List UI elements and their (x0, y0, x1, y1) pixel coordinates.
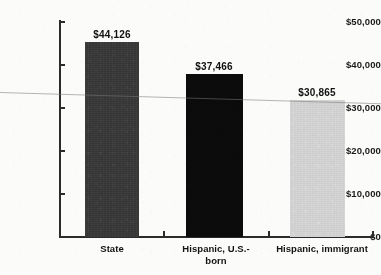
y-axis-tick-40000 (59, 64, 65, 66)
x-axis-category-state: State (69, 243, 155, 255)
x-axis-category-hispanic-us-born-line1: Hispanic, U.S.- (182, 243, 249, 254)
y-axis-label-50000: $50,000 (326, 16, 381, 27)
x-axis-category-hispanic-immigrant: Hispanic, immigrant (266, 243, 378, 255)
y-axis-tick-50000 (59, 21, 65, 23)
x-axis-tick-start (59, 231, 61, 238)
bar-value-label-hispanic-immigrant: $30,865 (276, 87, 358, 98)
y-axis-tick-20000 (59, 150, 65, 152)
bar-hispanic-us-born-texture (186, 74, 243, 237)
bar-value-label-hispanic-us-born: $37,466 (173, 61, 255, 72)
x-axis-category-hispanic-us-born: Hispanic, U.S.- born (167, 243, 265, 267)
bar-state (85, 42, 139, 237)
bar-value-label-state: $44,126 (71, 29, 153, 40)
bar-chart-figure: $50,000 $40,000 $30,000 $20,000 $10,000 … (0, 0, 381, 275)
x-axis-tick-1 (163, 231, 165, 238)
y-axis-tick-30000 (59, 107, 65, 109)
bar-hispanic-immigrant (290, 100, 345, 237)
bar-state-texture (85, 42, 139, 237)
x-axis-category-hispanic-us-born-line2: born (205, 255, 226, 266)
x-axis-tick-2 (268, 231, 270, 238)
y-axis-label-40000: $40,000 (326, 59, 381, 70)
bar-hispanic-us-born (186, 74, 243, 237)
x-axis-tick-end (372, 231, 374, 238)
plot-area: $50,000 $40,000 $30,000 $20,000 $10,000 … (0, 0, 381, 275)
y-axis-tick-10000 (59, 193, 65, 195)
y-axis-line (59, 20, 61, 238)
bar-hispanic-immigrant-texture (290, 100, 345, 237)
